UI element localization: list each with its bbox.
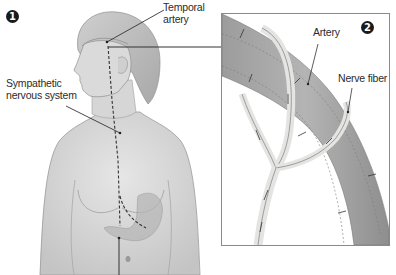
temporal-artery-label-line2: artery [163, 13, 205, 25]
artery-band [222, 14, 389, 245]
torso-shape [40, 112, 200, 275]
nerve-fiber-label: Nerve fiber [338, 72, 387, 84]
temporal-artery-label-line1: Temporal [163, 1, 205, 13]
sympathetic-nervous-system-label: Sympathetic nervous system [6, 77, 77, 101]
panel-1-badge: 1 [6, 10, 19, 23]
sympathetic-label-line2: nervous system [6, 89, 77, 101]
sympathetic-label-line1: Sympathetic [6, 77, 77, 89]
artery-nerve-illustration [222, 14, 389, 245]
temporal-artery-label: Temporal artery [163, 1, 205, 25]
artery-label: Artery [313, 26, 340, 38]
magnified-inset-panel: 2 Artery Nerve fiber [221, 13, 390, 246]
panel-2-badge: 2 [361, 21, 374, 34]
